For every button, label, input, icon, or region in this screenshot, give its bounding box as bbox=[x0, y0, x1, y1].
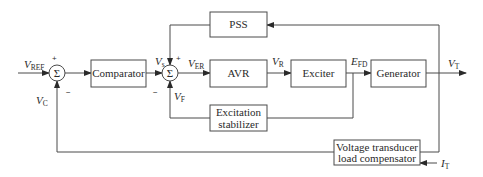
vf-label: VF bbox=[174, 90, 185, 104]
avr-label: AVR bbox=[228, 67, 250, 79]
vr-label: VR bbox=[272, 55, 284, 69]
vc-feedback-line bbox=[57, 81, 334, 152]
exciter-label: Exciter bbox=[303, 67, 335, 79]
pss-block: PSS bbox=[210, 12, 267, 37]
generator-block: Generator bbox=[371, 60, 426, 87]
comparator-label: Comparator bbox=[92, 67, 145, 79]
sigma-symbol: Σ bbox=[54, 67, 60, 79]
sigma-symbol: Σ bbox=[167, 67, 173, 79]
transducer-label-line2: load compensator bbox=[338, 152, 416, 164]
efd-label: EFD bbox=[350, 55, 368, 69]
vs-label: Vs bbox=[155, 55, 165, 69]
sum2-minus-sign: − bbox=[153, 88, 158, 97]
sum1-plus-sign: + bbox=[52, 54, 57, 63]
excitation-system-block-diagram: Σ Σ Comparator PSS AVR Exciter Generator… bbox=[0, 0, 483, 177]
pss-label: PSS bbox=[229, 18, 247, 30]
comparator-block: Comparator bbox=[91, 60, 146, 87]
voltage-transducer-block: Voltage transducer load compensator bbox=[334, 140, 420, 165]
avr-block: AVR bbox=[210, 60, 267, 87]
vref-label: VREF bbox=[24, 58, 45, 72]
vc-label: VC bbox=[36, 94, 48, 108]
generator-label: Generator bbox=[377, 67, 421, 79]
stabilizer-label-line2: stabilizer bbox=[218, 118, 259, 130]
it-label: IT bbox=[440, 157, 450, 171]
sum1-minus-sign: − bbox=[66, 88, 71, 97]
sum2-plus-sign: + bbox=[176, 54, 181, 63]
stabilizer-label-line1: Excitation bbox=[216, 106, 262, 118]
vt-label: VT bbox=[448, 57, 460, 71]
summing-junction-1: Σ bbox=[49, 65, 65, 81]
exciter-block: Exciter bbox=[291, 60, 346, 87]
excitation-stabilizer-block: Excitation stabilizer bbox=[210, 105, 267, 131]
ver-label: VER bbox=[188, 57, 204, 71]
